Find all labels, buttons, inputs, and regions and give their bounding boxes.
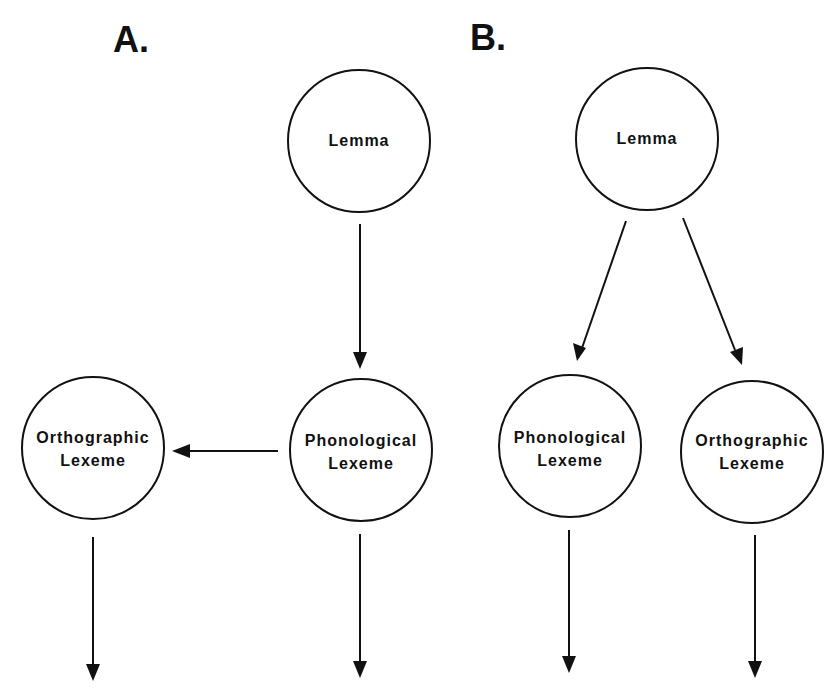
panel-a-label: A. xyxy=(113,19,149,60)
node-a-orthographic-line2: Lexeme xyxy=(60,452,126,469)
arrowhead-left-icon xyxy=(172,444,190,458)
node-a-phonological-line1: Phonological xyxy=(305,432,417,449)
panel-b-label: B. xyxy=(470,17,506,58)
node-b-phonological-line2: Lexeme xyxy=(537,452,603,469)
edge-b-lemma-to-orthographic xyxy=(683,218,743,365)
node-b-phonological-line1: Phonological xyxy=(514,429,626,446)
node-b-orthographic-line1: Orthographic xyxy=(695,432,808,449)
edge-a-phonological-output xyxy=(353,534,367,678)
diagram-canvas: A. Lemma Phonological Lexeme Orthographi… xyxy=(0,0,836,691)
node-b-lemma-label: Lemma xyxy=(616,130,677,147)
node-a-orthographic: Orthographic Lexeme xyxy=(22,377,164,519)
arrowhead-down-icon xyxy=(353,661,367,678)
node-a-phonological: Phonological Lexeme xyxy=(290,379,432,521)
node-a-orthographic-line1: Orthographic xyxy=(36,429,149,446)
arrowhead-down-icon xyxy=(748,661,762,678)
edge-a-lemma-to-phonological xyxy=(353,224,367,369)
node-a-phonological-line2: Lexeme xyxy=(328,455,394,472)
node-a-lemma-label: Lemma xyxy=(328,132,389,149)
arrowhead-down-left-icon xyxy=(573,343,586,361)
node-b-orthographic-line2: Lexeme xyxy=(719,455,785,472)
edge-b-phonological-output xyxy=(562,530,576,673)
edge-b-lemma-to-phonological xyxy=(573,221,626,361)
node-a-lemma: Lemma xyxy=(288,70,430,212)
panel-a: A. Lemma Phonological Lexeme Orthographi… xyxy=(22,19,432,681)
arrowhead-down-icon xyxy=(353,352,367,369)
edge-a-phonological-to-orthographic xyxy=(172,444,278,458)
node-b-lemma: Lemma xyxy=(576,68,718,210)
arrowhead-down-right-icon xyxy=(730,347,743,365)
panel-b: B. Lemma Phonological Lexeme Orthographi… xyxy=(470,17,823,678)
arrowhead-down-icon xyxy=(86,664,100,681)
node-b-orthographic: Orthographic Lexeme xyxy=(681,381,823,523)
edge-b-orthographic-output xyxy=(748,535,762,678)
edge-a-orthographic-output xyxy=(86,537,100,681)
node-b-phonological: Phonological Lexeme xyxy=(499,375,641,517)
arrowhead-down-icon xyxy=(562,656,576,673)
